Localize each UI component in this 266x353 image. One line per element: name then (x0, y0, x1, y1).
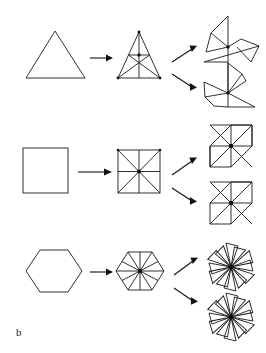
panel-label: b (16, 326, 22, 338)
hexagon-rosette-top (207, 243, 256, 291)
triangle-pinwheel-bottom (204, 63, 255, 107)
arrow-triangle-up (172, 46, 197, 63)
arrow-hexagon-up (174, 258, 198, 275)
square-dissected-shape (117, 149, 162, 193)
arrow-square-main (78, 169, 112, 176)
hexagon-dissected-shape (116, 252, 164, 290)
arrow-hexagon-main (90, 269, 113, 276)
arrow-square-down (172, 188, 197, 205)
dissection-figure-svg (0, 0, 266, 353)
arrow-square-up (172, 158, 197, 176)
figure-root: b (0, 0, 266, 353)
triangle-row (26, 16, 259, 107)
square-row (23, 125, 252, 224)
square-pinwheel-top (210, 125, 252, 167)
square-pinwheel-bottom (210, 182, 252, 224)
arrow-triangle-main (90, 55, 113, 62)
hexagon-row (26, 243, 255, 341)
arrow-triangle-down (172, 74, 197, 91)
triangle-pinwheel-top (204, 16, 259, 93)
arrow-hexagon-down (174, 288, 198, 305)
triangle-dissected-shape (117, 31, 162, 80)
hexagon-rosette-bottom (207, 293, 256, 341)
triangle-source-shape (26, 31, 85, 78)
hexagon-source-shape (26, 250, 82, 292)
square-source-shape (23, 148, 68, 193)
